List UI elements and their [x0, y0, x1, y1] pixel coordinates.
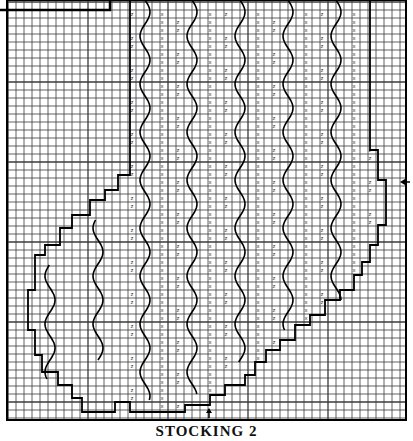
svg-text:x: x: [209, 163, 212, 169]
svg-text:x: x: [353, 107, 356, 113]
svg-text:z: z: [131, 331, 134, 337]
svg-text:x: x: [209, 203, 212, 209]
svg-text:z: z: [177, 339, 180, 345]
svg-text:z: z: [273, 283, 276, 289]
svg-text:x: x: [257, 331, 260, 337]
svg-text:x: x: [161, 299, 164, 305]
svg-text:z: z: [131, 171, 134, 177]
svg-text:x: x: [353, 35, 356, 41]
svg-text:z: z: [177, 83, 180, 89]
svg-text:x: x: [161, 259, 164, 265]
svg-text:x: x: [257, 235, 260, 241]
svg-text:z: z: [225, 131, 228, 137]
svg-text:z: z: [321, 75, 324, 81]
svg-text:x: x: [353, 163, 356, 169]
svg-text:x: x: [353, 83, 356, 89]
svg-text:x: x: [161, 347, 164, 353]
svg-text:x: x: [305, 123, 308, 129]
chart-caption: STOCKING 2: [0, 422, 413, 441]
svg-text:x: x: [305, 283, 308, 289]
svg-text:z: z: [273, 27, 276, 33]
svg-text:x: x: [161, 35, 164, 41]
svg-text:x: x: [209, 355, 212, 361]
svg-text:x: x: [257, 259, 260, 265]
svg-text:z: z: [321, 43, 324, 49]
svg-text:x: x: [209, 387, 212, 393]
svg-text:x: x: [257, 347, 260, 353]
svg-text:x: x: [353, 219, 356, 225]
svg-text:z: z: [225, 99, 228, 105]
svg-text:x: x: [305, 251, 308, 257]
svg-text:x: x: [305, 203, 308, 209]
svg-text:x: x: [209, 251, 212, 257]
svg-text:z: z: [225, 11, 228, 17]
svg-text:x: x: [209, 195, 212, 201]
svg-text:z: z: [225, 227, 228, 233]
svg-text:x: x: [305, 115, 308, 121]
svg-text:x: x: [257, 355, 260, 361]
svg-text:z: z: [273, 51, 276, 57]
svg-text:x: x: [161, 51, 164, 57]
svg-text:z: z: [321, 35, 324, 41]
svg-text:x: x: [209, 107, 212, 113]
svg-text:z: z: [131, 139, 134, 145]
svg-text:x: x: [305, 187, 308, 193]
svg-text:x: x: [161, 363, 164, 369]
svg-text:x: x: [353, 187, 356, 193]
svg-text:x: x: [161, 219, 164, 225]
svg-text:z: z: [177, 371, 180, 377]
svg-text:z: z: [225, 43, 228, 49]
svg-text:x: x: [161, 123, 164, 129]
svg-text:x: x: [353, 203, 356, 209]
svg-text:z: z: [321, 131, 324, 137]
svg-text:z: z: [273, 275, 276, 281]
svg-text:x: x: [305, 315, 308, 321]
svg-text:x: x: [305, 171, 308, 177]
svg-text:x: x: [161, 83, 164, 89]
svg-text:x: x: [353, 171, 356, 177]
svg-text:x: x: [353, 259, 356, 265]
svg-text:x: x: [353, 123, 356, 129]
svg-text:z: z: [131, 43, 134, 49]
svg-text:x: x: [161, 43, 164, 49]
svg-text:x: x: [161, 283, 164, 289]
svg-text:z: z: [131, 235, 134, 241]
svg-text:x: x: [257, 67, 260, 73]
svg-text:x: x: [209, 187, 212, 193]
svg-text:x: x: [353, 235, 356, 241]
svg-text:z: z: [273, 19, 276, 25]
svg-text:z: z: [273, 115, 276, 121]
svg-text:x: x: [353, 75, 356, 81]
svg-text:x: x: [305, 163, 308, 169]
svg-text:x: x: [257, 91, 260, 97]
svg-text:x: x: [209, 147, 212, 153]
svg-text:x: x: [161, 155, 164, 161]
svg-text:x: x: [209, 323, 212, 329]
svg-text:x: x: [209, 299, 212, 305]
svg-text:z: z: [177, 91, 180, 97]
svg-text:x: x: [209, 219, 212, 225]
center-markers: [206, 179, 410, 418]
svg-text:x: x: [353, 243, 356, 249]
svg-text:z: z: [131, 323, 134, 329]
svg-text:z: z: [131, 363, 134, 369]
svg-text:z: z: [321, 291, 324, 297]
svg-text:z: z: [131, 195, 134, 201]
svg-text:x: x: [257, 243, 260, 249]
svg-text:x: x: [161, 243, 164, 249]
svg-text:x: x: [209, 371, 212, 377]
svg-text:x: x: [353, 27, 356, 33]
svg-text:z: z: [225, 235, 228, 241]
svg-text:x: x: [161, 235, 164, 241]
svg-text:x: x: [161, 227, 164, 233]
svg-text:x: x: [353, 139, 356, 145]
svg-text:x: x: [209, 283, 212, 289]
svg-text:z: z: [131, 299, 134, 305]
svg-text:z: z: [225, 171, 228, 177]
svg-text:x: x: [353, 155, 356, 161]
svg-text:x: x: [161, 307, 164, 313]
svg-text:x: x: [353, 211, 356, 217]
svg-text:x: x: [305, 227, 308, 233]
svg-text:z: z: [273, 315, 276, 321]
svg-text:z: z: [225, 291, 228, 297]
